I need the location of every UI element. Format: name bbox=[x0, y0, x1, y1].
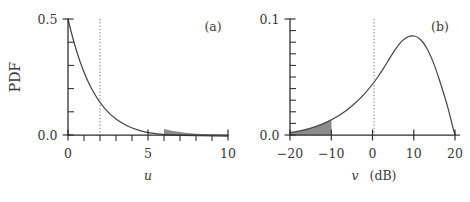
panel-a-ytick-label-0: 0.0 bbox=[38, 128, 58, 143]
panel-b-ytick-label-0: 0.0 bbox=[260, 128, 280, 143]
panel-b-xtick-label-m10: −10 bbox=[318, 146, 344, 161]
panel-b-xtick-label-0: 0 bbox=[369, 146, 377, 161]
panel-a-label: (a) bbox=[204, 19, 221, 34]
pdf-comparison-figure: 0.0 0.5 0 5 10 u PDF (a) bbox=[0, 0, 470, 202]
panel-a-shaded-tail bbox=[164, 129, 228, 135]
panel-a-x-axis-label: u bbox=[144, 168, 152, 183]
panel-b-xtick-label-10: 10 bbox=[406, 146, 422, 161]
panel-a-y-axis-label: PDF bbox=[7, 62, 23, 93]
panel-b-xtick-label-20: 20 bbox=[447, 146, 463, 161]
panel-a-xtick-label-5: 5 bbox=[144, 146, 152, 161]
panel-b-label: (b) bbox=[431, 19, 449, 34]
panel-b-x-axis-label-symbol: v bbox=[351, 168, 358, 183]
panel-b: −20 −10 0 10 20 0.0 0.1 v (dB) (b) bbox=[260, 12, 463, 184]
panel-a-ytick-label-1: 0.5 bbox=[38, 12, 58, 27]
panel-b-xtick-label-m20: −20 bbox=[277, 146, 303, 161]
panel-b-x-axis-label-unit: (dB) bbox=[370, 168, 397, 183]
panel-b-curve bbox=[290, 36, 460, 135]
panel-a-xtick-label-0: 0 bbox=[64, 146, 72, 161]
panel-a: 0.0 0.5 0 5 10 u PDF (a) bbox=[7, 12, 236, 184]
figure-container: 0.0 0.5 0 5 10 u PDF (a) bbox=[0, 0, 470, 202]
panel-a-curve bbox=[68, 19, 228, 136]
panel-a-xtick-label-10: 10 bbox=[220, 146, 236, 161]
panel-b-ytick-label-1: 0.1 bbox=[260, 12, 280, 27]
